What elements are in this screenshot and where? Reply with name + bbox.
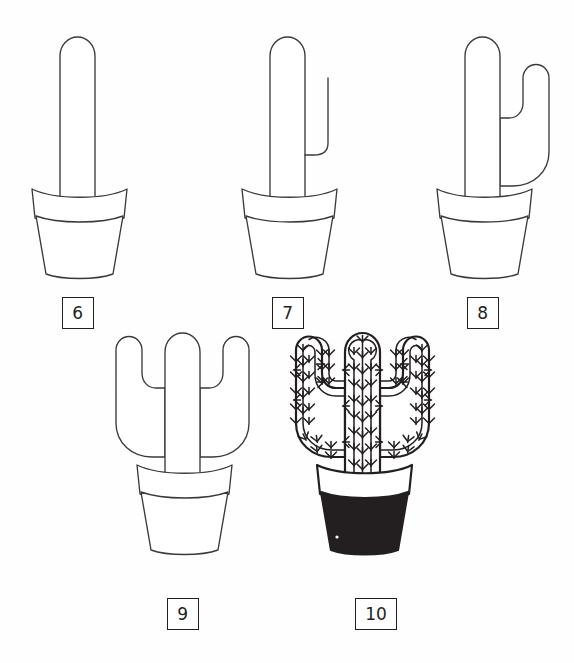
step-number-label: 9 bbox=[177, 606, 188, 623]
step-6-figure bbox=[0, 0, 190, 300]
pot-speck bbox=[335, 535, 338, 538]
step-number-box-6: 6 bbox=[62, 297, 94, 329]
step-panel-10: 10 bbox=[265, 330, 475, 660]
left-arm bbox=[116, 337, 165, 458]
step-panel-7: 7 bbox=[210, 0, 400, 340]
cactus-trunk bbox=[165, 333, 200, 480]
step-number-box-8: 8 bbox=[467, 297, 499, 329]
cactus-trunk bbox=[60, 37, 95, 205]
step-8-figure bbox=[405, 0, 574, 300]
pot-body bbox=[141, 492, 228, 555]
step-number-box-10: 10 bbox=[355, 598, 397, 630]
step-number-label: 8 bbox=[477, 305, 488, 322]
step-10-figure bbox=[265, 330, 475, 620]
pot-body bbox=[36, 216, 123, 279]
step-panel-8: 8 bbox=[405, 0, 574, 340]
right-arm bbox=[200, 337, 249, 458]
step-panel-9: 9 bbox=[85, 330, 285, 660]
right-arm bbox=[500, 65, 549, 187]
step-number-label: 7 bbox=[282, 305, 293, 322]
tutorial-sheet: 6 7 bbox=[0, 0, 574, 663]
step-number-box-7: 7 bbox=[272, 297, 304, 329]
step-number-label: 6 bbox=[72, 305, 83, 322]
pot-body-filled bbox=[321, 492, 408, 555]
step-9-figure bbox=[85, 330, 285, 620]
cactus-trunk bbox=[465, 37, 500, 205]
step-number-box-9-inner: 9 bbox=[167, 598, 199, 630]
step-panel-6: 6 bbox=[0, 0, 190, 340]
pot-body bbox=[246, 216, 333, 279]
right-arm-outline-partial bbox=[305, 78, 328, 155]
pot-body bbox=[441, 216, 528, 279]
step-7-figure bbox=[210, 0, 400, 300]
cactus-trunk bbox=[270, 37, 305, 205]
step-number-label: 10 bbox=[365, 606, 387, 623]
